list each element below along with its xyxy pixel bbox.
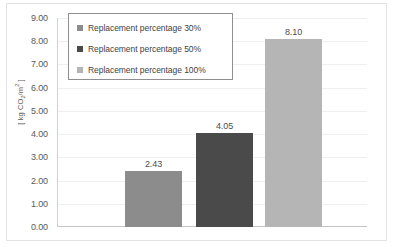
y-axis-tick-label: 9.00 (31, 13, 48, 23)
y-axis-tick-label: 8.00 (31, 36, 48, 46)
bar-value-label: 2.43 (115, 159, 192, 169)
y-axis-tick-label: 0.00 (31, 222, 48, 232)
legend-item[interactable]: Replacement percentage 30% (77, 22, 201, 34)
bar-chart: [ kg CO2/m2 ] 9.008.007.006.005.004.003.… (0, 0, 393, 247)
bar-value-label: 4.05 (186, 121, 263, 131)
y-axis-tick-labels: 9.008.007.006.005.004.003.002.001.000.00 (0, 0, 57, 247)
y-axis-tick-label: 2.00 (31, 176, 48, 186)
legend-swatch-icon (77, 46, 83, 52)
legend-item[interactable]: Replacement percentage 50% (77, 43, 201, 55)
bar-value-label: 8.10 (255, 27, 332, 37)
bar[interactable] (196, 133, 253, 227)
bar[interactable] (265, 39, 322, 227)
y-axis-tick-label: 4.00 (31, 129, 48, 139)
y-axis-tick-label: 1.00 (31, 199, 48, 209)
y-axis-tick-label: 7.00 (31, 59, 48, 69)
bar[interactable] (125, 171, 182, 227)
legend-item-label: Replacement percentage 50% (88, 44, 201, 54)
legend-item-label: Replacement percentage 100% (88, 65, 206, 75)
y-axis-tick-label: 6.00 (31, 83, 48, 93)
legend-swatch-icon (77, 25, 83, 31)
y-axis-tick-label: 5.00 (31, 106, 48, 116)
legend-item-label: Replacement percentage 30% (88, 23, 201, 33)
bar-slot: 8.10 (265, 18, 322, 227)
legend-swatch-icon (77, 67, 83, 73)
legend: Replacement percentage 30%Replacement pe… (68, 13, 233, 80)
y-axis-tick-label: 3.00 (31, 152, 48, 162)
legend-item[interactable]: Replacement percentage 100% (77, 64, 206, 76)
